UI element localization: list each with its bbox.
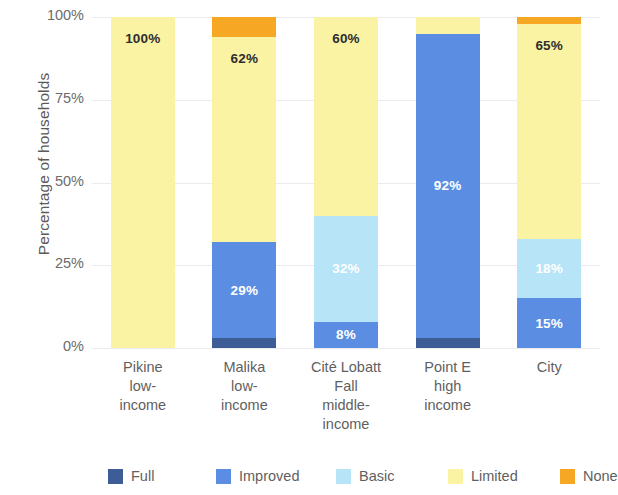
y-tick-label: 0% bbox=[26, 338, 84, 354]
x-axis-label-line: City bbox=[498, 358, 600, 377]
bar-segment-value-label: 65% bbox=[535, 38, 563, 53]
bar-segment-value-label: 15% bbox=[535, 316, 563, 331]
x-axis-label-line: income bbox=[295, 415, 397, 434]
bar-segment-value-label: 29% bbox=[231, 283, 259, 298]
chart-legend: FullImprovedBasicLimitedNone bbox=[108, 466, 609, 488]
x-axis-label-line: Point E bbox=[397, 358, 499, 377]
bar-segment-value-label: 100% bbox=[125, 31, 160, 46]
x-axis-label: Malikalow-income bbox=[194, 358, 296, 415]
bar-stack: 100% bbox=[111, 17, 175, 348]
x-axis-category-labels: Pikinelow-incomeMalikalow-incomeCité Lob… bbox=[92, 358, 600, 450]
x-axis-label: City bbox=[498, 358, 600, 377]
bar-group[interactable]: 8%32%60% bbox=[314, 17, 378, 348]
legend-label: None bbox=[583, 468, 618, 484]
legend-item-improved[interactable]: Improved bbox=[216, 466, 299, 486]
bar-segment-value-label: 62% bbox=[231, 51, 259, 66]
bar-segment-value-label: 32% bbox=[332, 261, 360, 276]
bar-segment-improved[interactable]: 29% bbox=[212, 242, 276, 338]
legend-item-none[interactable]: None bbox=[560, 466, 618, 486]
legend-swatch-icon bbox=[216, 469, 231, 484]
bar-segment-none[interactable] bbox=[212, 17, 276, 37]
bar-group[interactable]: 29%62% bbox=[212, 17, 276, 348]
bar-segment-value-label: 60% bbox=[332, 31, 360, 46]
y-tick-label: 100% bbox=[26, 7, 84, 23]
x-axis-label-line: Malika bbox=[194, 358, 296, 377]
x-axis-label-line: high bbox=[397, 377, 499, 396]
x-axis-label-line: income bbox=[194, 396, 296, 415]
bar-stack: 92% bbox=[416, 17, 480, 348]
bar-segment-improved[interactable]: 15% bbox=[517, 298, 581, 348]
x-axis-label-line: low- bbox=[194, 377, 296, 396]
legend-item-full[interactable]: Full bbox=[108, 466, 154, 486]
bar-segment-improved[interactable]: 8% bbox=[314, 322, 378, 348]
bar-stack: 8%32%60% bbox=[314, 17, 378, 348]
bar-segment-full[interactable] bbox=[212, 338, 276, 348]
x-axis-label-line: income bbox=[92, 396, 194, 415]
legend-item-limited[interactable]: Limited bbox=[448, 466, 518, 486]
y-tick-label: 25% bbox=[26, 255, 84, 271]
gridline-0 bbox=[92, 348, 600, 349]
bar-segment-basic[interactable]: 18% bbox=[517, 239, 581, 299]
legend-item-basic[interactable]: Basic bbox=[336, 466, 394, 486]
bar-segment-improved[interactable]: 92% bbox=[416, 34, 480, 339]
y-tick-label: 50% bbox=[26, 173, 84, 189]
legend-swatch-icon bbox=[560, 469, 575, 484]
bar-segment-limited[interactable]: 100% bbox=[111, 17, 175, 348]
bar-segment-full[interactable] bbox=[416, 338, 480, 348]
legend-label: Improved bbox=[239, 468, 299, 484]
x-axis-label: Pikinelow-income bbox=[92, 358, 194, 415]
bar-segment-value-label: 92% bbox=[434, 178, 462, 193]
bar-group[interactable]: 92% bbox=[416, 17, 480, 348]
legend-swatch-icon bbox=[108, 469, 123, 484]
bar-segment-value-label: 8% bbox=[336, 327, 356, 342]
bar-segment-limited[interactable] bbox=[416, 17, 480, 34]
x-axis-label: Point Ehighincome bbox=[397, 358, 499, 415]
x-axis-label-line: Cité Lobatt bbox=[295, 358, 397, 377]
x-axis-label-line: Fall bbox=[295, 377, 397, 396]
y-tick-label: 75% bbox=[26, 90, 84, 106]
x-axis-label-line: Pikine bbox=[92, 358, 194, 377]
plot-area: 100%29%62%8%32%60%92%15%18%65% bbox=[92, 17, 600, 348]
bar-segment-none[interactable] bbox=[517, 17, 581, 24]
bar-stack: 29%62% bbox=[212, 17, 276, 348]
legend-swatch-icon bbox=[448, 469, 463, 484]
bar-stack: 15%18%65% bbox=[517, 17, 581, 348]
x-axis-label-line: middle- bbox=[295, 396, 397, 415]
x-axis-label: Cité LobattFallmiddle-income bbox=[295, 358, 397, 434]
legend-swatch-icon bbox=[336, 469, 351, 484]
bar-segment-limited[interactable]: 60% bbox=[314, 17, 378, 216]
bar-group[interactable]: 15%18%65% bbox=[517, 17, 581, 348]
bar-segment-limited[interactable]: 65% bbox=[517, 24, 581, 239]
bar-group[interactable]: 100% bbox=[111, 17, 175, 348]
x-axis-label-line: income bbox=[397, 396, 499, 415]
bar-segment-basic[interactable]: 32% bbox=[314, 216, 378, 322]
bar-segment-limited[interactable]: 62% bbox=[212, 37, 276, 242]
legend-label: Limited bbox=[471, 468, 518, 484]
legend-label: Basic bbox=[359, 468, 394, 484]
legend-label: Full bbox=[131, 468, 154, 484]
bars-layer: 100%29%62%8%32%60%92%15%18%65% bbox=[92, 17, 600, 348]
x-axis-label-line: low- bbox=[92, 377, 194, 396]
bar-segment-value-label: 18% bbox=[535, 261, 563, 276]
